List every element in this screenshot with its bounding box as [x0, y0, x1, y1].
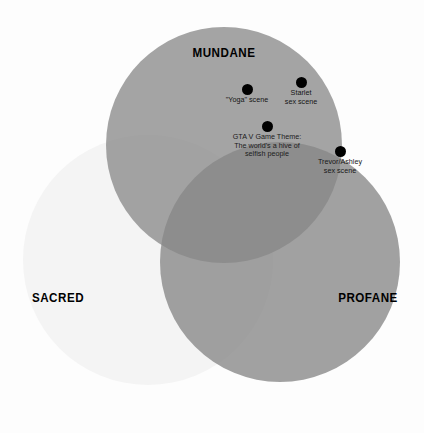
venn-item-label: Starletsex scene	[285, 89, 317, 106]
venn-item-dot	[262, 121, 273, 132]
venn-item-label-line: selfish people	[233, 150, 301, 159]
set-label-profane: PROFANE	[338, 290, 398, 305]
venn-item-label: Trevor/Ashleysex scene	[318, 158, 362, 175]
venn-item-dot	[335, 146, 346, 157]
venn-item-dot	[242, 84, 253, 95]
venn-item-label: GTA V Game Theme:The world's a hive ofse…	[233, 133, 301, 159]
venn-circle-profane	[160, 142, 400, 382]
venn-item-label: "Yoga" scene	[226, 96, 268, 105]
venn-item-label-line: sex scene	[285, 98, 317, 107]
venn-item-label-line: "Yoga" scene	[226, 96, 268, 105]
venn-item-label-line: sex scene	[318, 167, 362, 176]
venn-circles	[0, 0, 424, 433]
venn-item-dot	[296, 77, 307, 88]
set-label-mundane: MUNDANE	[193, 45, 256, 60]
set-label-sacred: SACRED	[32, 290, 84, 305]
venn-diagram: MUNDANE SACRED PROFANE "Yoga" sceneStarl…	[0, 0, 424, 433]
